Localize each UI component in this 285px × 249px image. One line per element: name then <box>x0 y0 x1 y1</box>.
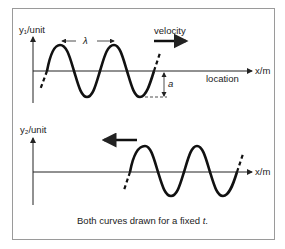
panel1-y-label: y₁/unit <box>19 25 45 35</box>
caption-period: . <box>205 215 208 226</box>
amplitude-label: a <box>168 79 173 89</box>
figure-caption: Both curves drawn for a fixed t. <box>0 215 285 226</box>
wave-2-dash-end <box>237 154 243 172</box>
wave-2 <box>130 146 237 196</box>
caption-text: Both curves drawn for a fixed <box>77 215 203 226</box>
location-label: location <box>206 74 239 84</box>
wave-1-dash-start <box>40 71 47 90</box>
panel2-x-label: x/m <box>255 167 270 177</box>
wave-1-dash-end <box>154 53 160 71</box>
wavelength-label: λ <box>83 36 88 46</box>
wave-2-dash-start <box>124 172 130 190</box>
panel1-x-label: x/m <box>255 66 270 76</box>
velocity-label: velocity <box>154 26 186 36</box>
panel2-y-label: y₂/unit <box>20 125 46 135</box>
